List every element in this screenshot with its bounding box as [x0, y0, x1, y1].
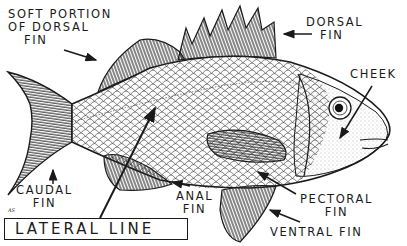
- artist-signature: AS: [8, 207, 15, 213]
- ventral-arrow: [270, 210, 300, 222]
- ventral-fin: [220, 186, 276, 243]
- spiny-dorsal-fin: [178, 6, 276, 60]
- label-ventral-fin: VENTRAL FIN: [270, 226, 362, 239]
- label-lateral-line: LATERAL LINE: [4, 218, 188, 240]
- label-dorsal-fin: DORSAL FIN: [306, 16, 363, 42]
- label-cheek: CHEEK: [350, 68, 397, 81]
- soft-dorsal-arrow: [64, 50, 96, 60]
- label-anal-fin: ANAL FIN: [176, 190, 213, 216]
- caudal-fin: [8, 72, 72, 195]
- label-pectoral-fin: PECTORAL FIN: [300, 193, 373, 219]
- label-soft-dorsal-fin: SOFT PORTION OF DORSAL FIN: [8, 8, 112, 47]
- label-caudal-fin: CAUDAL FIN: [16, 184, 73, 210]
